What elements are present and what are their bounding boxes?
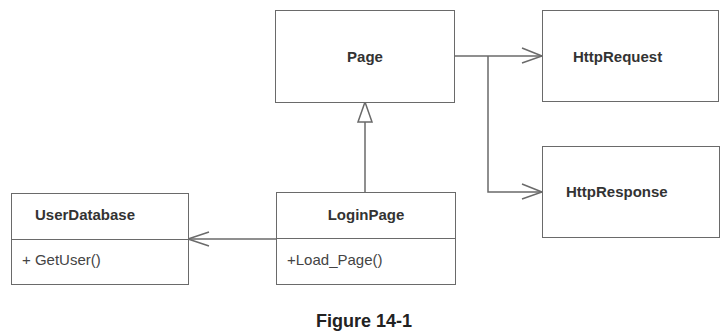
hollow-triangle-icon — [358, 102, 372, 122]
class-page: Page — [275, 10, 455, 103]
class-httpresponse: HttpResponse — [542, 146, 720, 238]
operation: +Load_Page() — [287, 251, 383, 268]
association-page-httpresponse — [488, 56, 542, 192]
class-name: HttpRequest — [573, 48, 662, 65]
compartment-divider — [277, 238, 455, 239]
class-userdatabase: UserDatabase + GetUser() — [11, 193, 189, 285]
compartment-divider — [12, 239, 188, 240]
class-name: UserDatabase — [35, 206, 135, 223]
operation: + GetUser() — [22, 251, 101, 268]
class-loginpage: LoginPage +Load_Page() — [276, 192, 456, 285]
class-name: Page — [276, 48, 454, 65]
class-name: LoginPage — [277, 206, 455, 223]
class-name: HttpResponse — [566, 183, 668, 200]
class-httprequest: HttpRequest — [542, 10, 719, 102]
figure-caption: Figure 14-1 — [0, 311, 728, 332]
